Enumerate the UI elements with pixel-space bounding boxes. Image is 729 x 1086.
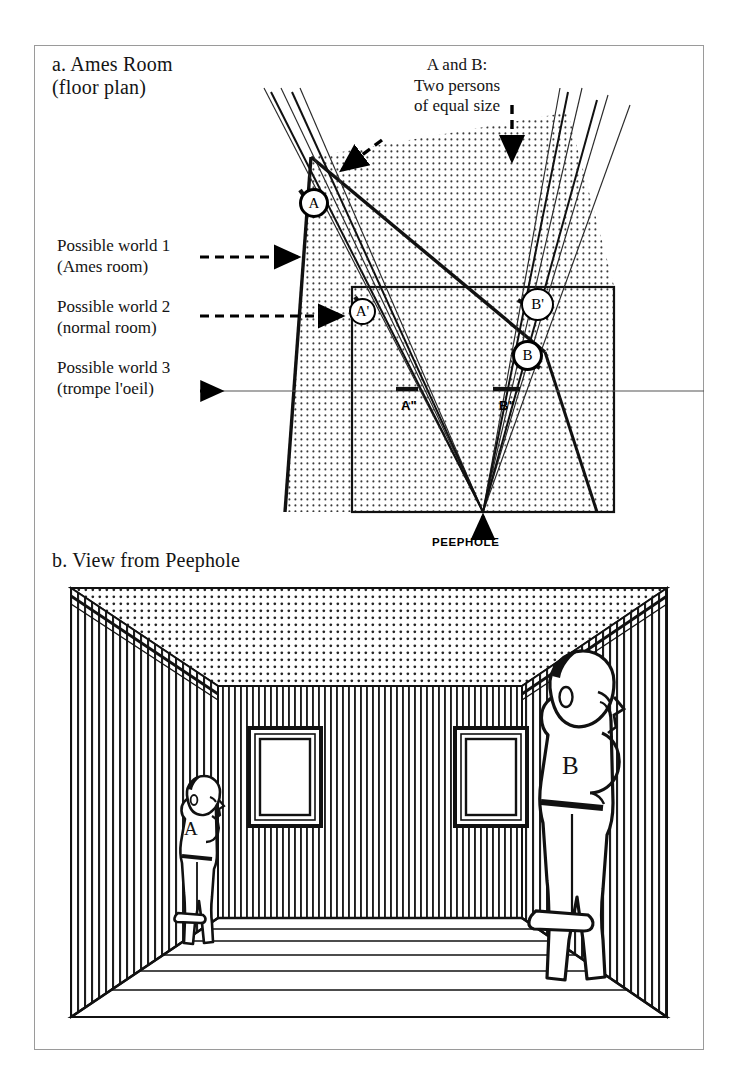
legend-possible-world-1: Possible world 1 (Ames room) (57, 236, 170, 277)
marker-b-ames: B (512, 340, 543, 371)
panel-a-title: a. Ames Room (floor plan) (52, 53, 173, 100)
persons-equal-size-callout: A and B: Two persons of equal size (372, 55, 542, 117)
figure-border (34, 45, 704, 1050)
legend-possible-world-2: Possible world 2 (normal room) (57, 297, 170, 338)
person-a-shirt-letter: A (184, 818, 198, 840)
panel-b-title: b. View from Peephole (52, 549, 240, 572)
marker-b-double-prime: B" (499, 398, 515, 413)
marker-a-ames: A (299, 188, 329, 218)
marker-a-prime-normal: A' (349, 298, 376, 325)
legend-possible-world-3: Possible world 3 (trompe l'oeil) (57, 358, 170, 399)
person-b-shirt-letter: B (562, 752, 579, 780)
marker-a-double-prime: A" (401, 398, 417, 413)
marker-b-prime: B' (521, 288, 554, 321)
peephole-label: PEEPHOLE (432, 536, 499, 548)
